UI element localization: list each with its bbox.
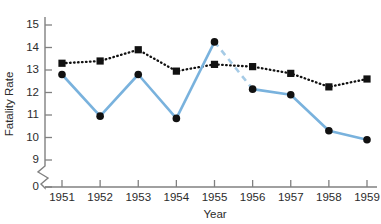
x-tick-label: 1951 — [49, 191, 75, 203]
y-tick-label: 15 — [26, 18, 39, 30]
data-point-circle — [287, 91, 295, 99]
data-point-square — [135, 46, 142, 53]
y-axis-title: Fatality Rate — [3, 72, 15, 137]
data-point-square — [363, 75, 370, 82]
data-point-circle — [211, 38, 219, 46]
y-axis: 15141312111090 — [26, 17, 52, 192]
x-tick-label: 1952 — [87, 191, 113, 203]
x-tick-label: 1959 — [354, 191, 380, 203]
black-dotted-line — [62, 50, 367, 87]
data-series-group — [62, 42, 367, 140]
x-tick-label: 1957 — [278, 191, 304, 203]
x-tick-label: 1955 — [202, 191, 228, 203]
data-point-square — [58, 60, 65, 67]
data-point-square — [287, 70, 294, 77]
data-point-circle — [325, 127, 333, 135]
data-point-square — [211, 61, 218, 68]
data-point-circle — [363, 136, 371, 144]
fatality-rate-line-chart: 15141312111090 1951195219531954195519561… — [0, 0, 381, 224]
x-axis-title: Year — [203, 208, 226, 220]
y-tick-label: 12 — [26, 86, 39, 98]
data-point-circle — [249, 85, 257, 93]
data-point-square — [249, 63, 256, 70]
y-tick-label: 9 — [33, 153, 39, 165]
y-tick-label: 10 — [26, 131, 39, 143]
y-tick-label: 0 — [33, 180, 39, 192]
y-tick-label: 13 — [26, 63, 39, 75]
x-tick-label: 1953 — [125, 191, 151, 203]
x-tick-label: 1958 — [316, 191, 342, 203]
data-point-circle — [58, 71, 66, 79]
data-point-square — [97, 57, 104, 64]
x-tick-label: 1956 — [240, 191, 266, 203]
blue-solid-line-segment-late — [253, 89, 367, 140]
data-point-square — [325, 83, 332, 90]
y-tick-label: 11 — [27, 108, 39, 120]
x-tick-label: 1954 — [164, 191, 190, 203]
x-axis: 195119521953195419551956195719581959 — [45, 180, 380, 203]
data-point-circle — [96, 112, 104, 120]
data-point-circle — [173, 115, 181, 123]
data-point-circle — [134, 71, 142, 79]
data-point-square — [173, 68, 180, 75]
y-tick-label: 14 — [26, 41, 39, 53]
chart-canvas: 15141312111090 1951195219531954195519561… — [0, 0, 381, 224]
